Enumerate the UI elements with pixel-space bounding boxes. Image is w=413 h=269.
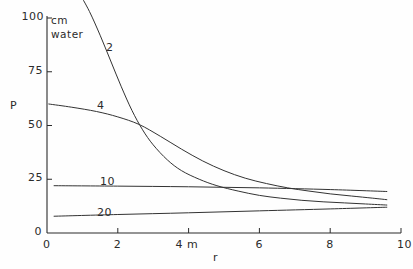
curve-label-2: 2 bbox=[106, 42, 114, 55]
x-tick-label: 10 bbox=[397, 239, 412, 252]
y-tick-label: 0 bbox=[35, 226, 43, 239]
y-tick-label: 100 bbox=[22, 11, 45, 24]
y-tick-label: 50 bbox=[28, 119, 43, 132]
y-unit-label-line2: water bbox=[51, 28, 83, 40]
y-axis-title: P bbox=[10, 100, 17, 113]
y-tick-label: 75 bbox=[28, 65, 43, 78]
tick-marks bbox=[47, 18, 401, 233]
y-unit-label-line1: cm bbox=[51, 14, 68, 26]
y-tick-label: 25 bbox=[28, 172, 43, 185]
axis-lines bbox=[47, 16, 401, 233]
x-tick-label: 8 bbox=[326, 239, 334, 252]
x-tick-label: 2 bbox=[114, 239, 122, 252]
chart-figure: cm water P r 024 m6810 0255075100 241020 bbox=[0, 0, 413, 269]
curve-label-4: 4 bbox=[97, 100, 105, 113]
curve-label-20: 20 bbox=[97, 207, 112, 220]
chart-canvas bbox=[0, 0, 413, 269]
x-tick-label: 0 bbox=[43, 239, 51, 252]
x-tick-label: 6 bbox=[255, 239, 263, 252]
x-axis-title: r bbox=[213, 252, 218, 265]
x-tick-label: 4 m bbox=[176, 239, 199, 252]
curve-label-10: 10 bbox=[100, 176, 115, 189]
